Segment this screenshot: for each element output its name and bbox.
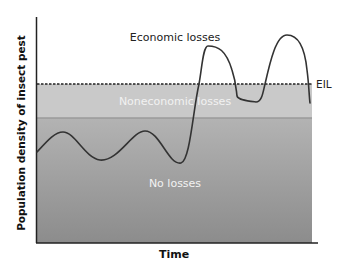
eil-label: EIL xyxy=(316,78,332,90)
noneconomic-losses-label: Noneconomic losses xyxy=(119,95,232,108)
economic-losses-label: Economic losses xyxy=(130,31,221,44)
x-axis-label: Time xyxy=(159,248,189,261)
no-losses-label: No losses xyxy=(149,177,201,190)
pest-population-diagram: Economic losses Noneconomic losses No lo… xyxy=(0,0,347,267)
y-axis-label: Population density of insect pest xyxy=(15,35,27,231)
